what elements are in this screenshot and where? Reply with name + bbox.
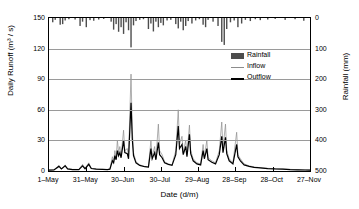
legend-item-rainfall: Rainfall [231, 50, 293, 60]
rainfall-bar [74, 18, 75, 20]
rainfall-bar [185, 18, 186, 26]
rainfall-bar [241, 18, 242, 24]
legend-item-outflow: Outflow [231, 72, 293, 82]
rainfall-bar [166, 18, 167, 20]
rainfall-bar [233, 18, 234, 20]
legend-label-outflow: Outflow [247, 73, 271, 81]
rainfall-bar [155, 18, 156, 22]
rainfall-bar [294, 18, 295, 19]
outflow-swatch-icon [231, 78, 244, 80]
x-tick-label: 27–Nov [286, 176, 332, 184]
rainfall-bar [148, 18, 149, 29]
inflow-swatch-icon [231, 67, 244, 68]
x-tick-mark [86, 167, 87, 171]
rainfall-bar [191, 18, 192, 24]
x-axis-title: Date (d/m) [48, 190, 311, 199]
chart-legend: Rainfall Inflow Outflow [231, 50, 293, 83]
rainfall-bar [150, 18, 151, 24]
rainfall-bar [255, 18, 256, 19]
y-tick-label-left: 90 [19, 75, 45, 82]
rainfall-bar [62, 18, 63, 24]
rainfall-bar [195, 18, 196, 20]
rainfall-bar [205, 18, 206, 27]
rainfall-bar [82, 18, 83, 22]
rainfall-bar [163, 18, 164, 25]
rainfall-bar [139, 18, 140, 20]
rainfall-bars [52, 18, 304, 47]
gridline [49, 140, 310, 141]
rainfall-bar [202, 18, 203, 25]
rainfall-bar [89, 18, 90, 20]
plot-canvas [49, 18, 310, 171]
y-tick-label-left: 120 [19, 45, 45, 52]
rainfall-bar [79, 18, 80, 26]
rainfall-bar [98, 18, 99, 20]
rainfall-bar [120, 18, 121, 27]
rainfall-bar [250, 18, 251, 21]
x-tick-mark [161, 167, 162, 171]
x-tick-mark [273, 167, 274, 171]
rainfall-bar [212, 18, 213, 22]
y-axis-title-left: Daily Runoff (m³ / s) [6, 16, 15, 106]
rainfall-bar [113, 18, 114, 30]
runoff-rainfall-chart: Daily Runoff (m³ / s) Rainfall (mm) Date… [0, 0, 359, 209]
y-tick-label-right: 300 [315, 106, 341, 113]
y-tick-label-left: 30 [19, 136, 45, 143]
rainfall-bar [123, 18, 124, 34]
rainfall-bar [64, 18, 65, 20]
legend-label-inflow: Inflow [247, 62, 265, 70]
rainfall-bar [110, 18, 111, 22]
rainfall-bar [237, 18, 238, 27]
rainfall-bar [178, 18, 179, 28]
rainfall-bar [199, 18, 200, 19]
rainfall-swatch-icon [231, 53, 244, 59]
plot-area [48, 17, 311, 172]
rainfall-bar [180, 18, 181, 22]
x-tick-mark [198, 167, 199, 171]
y-tick-label-left: 150 [19, 14, 45, 21]
rainfall-bar [303, 18, 304, 21]
rainfall-bar [170, 18, 171, 20]
rainfall-bar [245, 18, 246, 20]
rainfall-bar [188, 18, 189, 21]
y-tick-label-left: 60 [19, 106, 45, 113]
rainfall-bar [125, 18, 126, 22]
rainfall-bar [103, 18, 104, 19]
rainfall-bar [135, 18, 136, 21]
rainfall-bar [86, 18, 87, 27]
x-tick-mark [124, 167, 125, 171]
rainfall-bar [160, 18, 161, 23]
rainfall-bar [224, 18, 225, 45]
rainfall-bar [226, 18, 227, 29]
legend-label-rainfall: Rainfall [247, 51, 270, 59]
rainfall-bar [275, 18, 276, 19]
y-axis-title-right: Rainfall (mm) [341, 37, 350, 117]
rainfall-bar [175, 18, 176, 24]
y-tick-label-right: 500 [315, 167, 341, 174]
legend-item-inflow: Inflow [231, 61, 293, 71]
x-tick-mark [235, 167, 236, 171]
y-tick-label-right: 200 [315, 75, 341, 82]
inflow-line [49, 74, 310, 170]
y-tick-label-right: 100 [315, 45, 341, 52]
y-tick-label-right: 400 [315, 136, 341, 143]
rainfall-bar [128, 18, 129, 30]
rainfall-bar [115, 18, 116, 24]
rainfall-bar [153, 18, 154, 31]
rainfall-bar [230, 18, 231, 22]
rainfall-bar [52, 18, 53, 22]
rainfall-bar [260, 18, 261, 20]
gridline [49, 110, 310, 111]
rainfall-bar [133, 18, 134, 25]
rainfall-bar [93, 18, 94, 21]
rainfall-bar [284, 18, 285, 20]
rainfall-bar [267, 18, 268, 20]
rainfall-bar [59, 18, 60, 25]
rainfall-bar [183, 18, 184, 30]
rainfall-bar [221, 18, 222, 42]
y-tick-label-right: 0 [315, 14, 341, 21]
rainfall-bar [118, 18, 119, 32]
y-tick-label-left: 0 [19, 167, 45, 174]
rainfall-bar [217, 18, 218, 26]
rainfall-bar [130, 18, 131, 47]
